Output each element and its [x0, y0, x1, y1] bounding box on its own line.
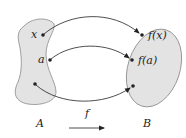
arrow-a-to-fa: [51, 46, 129, 59]
set-a-label: A: [35, 117, 44, 130]
point-unlabeled-b: [131, 84, 135, 88]
arrow-x-to-fx: [44, 17, 139, 34]
label-x: x: [31, 28, 38, 41]
label-fa: f(a): [137, 54, 157, 67]
point-fx: [140, 33, 144, 37]
set-b-label: B: [142, 117, 151, 130]
function-diagram: x a f(x) f(a) A B f: [0, 0, 186, 138]
label-fx: f(x): [147, 29, 167, 42]
function-label: f: [84, 107, 91, 120]
point-fa: [130, 58, 134, 62]
label-a: a: [38, 53, 45, 66]
